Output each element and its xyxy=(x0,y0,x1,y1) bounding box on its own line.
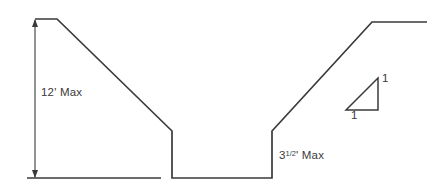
dimension-arrow-bottom xyxy=(32,170,38,178)
channel-cross-section-drawing: 12' Max 31/2' Max 1 1 xyxy=(0,0,435,195)
bottom-depth-unit-suffix: ' Max xyxy=(296,149,324,161)
bottom-depth-max-label: 31/2' Max xyxy=(279,150,324,162)
slope-vertical-label: 1 xyxy=(382,73,388,85)
depth-dimension-line xyxy=(32,19,38,178)
bottom-depth-value: 3 xyxy=(279,149,286,161)
slope-ratio-triangle-icon xyxy=(346,78,378,110)
ground-profile-polyline xyxy=(35,19,427,178)
slope-horizontal-label: 1 xyxy=(351,110,357,122)
depth-max-label: 12' Max xyxy=(41,87,82,99)
bottom-depth-fraction: 1/2 xyxy=(286,149,296,158)
dimension-arrow-top xyxy=(32,19,38,27)
